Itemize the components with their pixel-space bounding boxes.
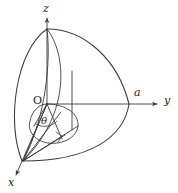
radius-line-to-origin xyxy=(23,104,47,161)
angle-label-theta: θ xyxy=(41,116,47,126)
axis-label-y: y xyxy=(164,95,170,106)
segment-origin-to-foot xyxy=(47,104,62,139)
axis-label-x: x xyxy=(8,177,14,188)
axis-label-z: z xyxy=(43,3,49,14)
figure-canvas: z y x O a θ xyxy=(0,0,178,193)
diagram-svg xyxy=(0,0,178,193)
radius-label-a: a xyxy=(134,87,141,98)
origin-label: O xyxy=(33,95,42,106)
